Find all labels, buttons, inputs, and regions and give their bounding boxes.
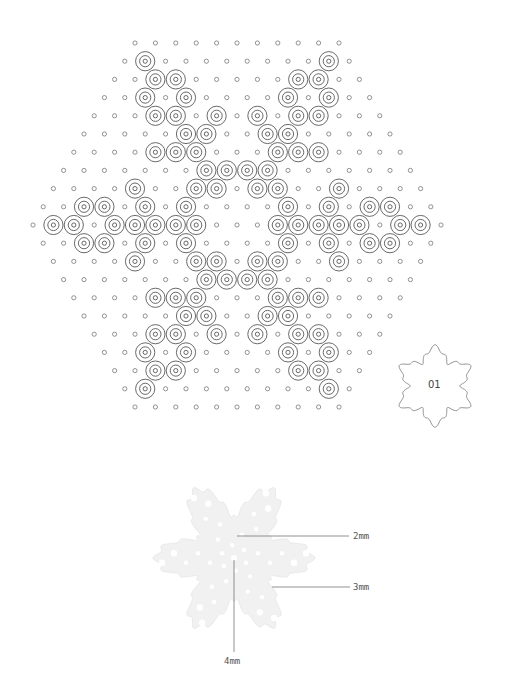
empty-peg [133, 114, 137, 118]
empty-peg [41, 205, 45, 209]
empty-peg [276, 114, 280, 118]
bead [329, 215, 348, 234]
bead [248, 325, 267, 344]
empty-peg [225, 205, 229, 209]
empty-peg [123, 314, 127, 318]
empty-peg [92, 150, 96, 154]
bead [309, 70, 328, 89]
empty-peg [266, 96, 270, 100]
empty-peg [194, 114, 198, 118]
empty-peg [133, 405, 137, 409]
empty-peg [164, 241, 168, 245]
empty-peg [439, 223, 443, 227]
bead [248, 106, 267, 125]
empty-peg [276, 77, 280, 81]
empty-peg [143, 314, 147, 318]
empty-peg [306, 59, 310, 63]
bead [146, 215, 165, 234]
empty-peg [215, 41, 219, 45]
empty-peg [123, 132, 127, 136]
bead [391, 215, 410, 234]
bead [289, 288, 308, 307]
empty-peg [347, 132, 351, 136]
empty-peg [184, 168, 188, 172]
empty-peg [347, 59, 351, 63]
bead [64, 215, 83, 234]
empty-peg [357, 114, 361, 118]
empty-peg [92, 259, 96, 263]
empty-peg [306, 350, 310, 354]
bead [248, 252, 267, 271]
empty-peg [378, 223, 382, 227]
empty-peg [133, 41, 137, 45]
empty-peg [408, 278, 412, 282]
empty-peg [113, 259, 117, 263]
bead [289, 325, 308, 344]
empty-peg [388, 132, 392, 136]
empty-peg [245, 132, 249, 136]
bead [176, 124, 195, 143]
empty-peg [62, 278, 66, 282]
bead [136, 343, 155, 362]
empty-peg [164, 168, 168, 172]
empty-peg [92, 187, 96, 191]
bead [187, 288, 206, 307]
empty-peg [337, 41, 341, 45]
empty-peg [368, 96, 372, 100]
empty-peg [327, 314, 331, 318]
bead [187, 215, 206, 234]
empty-peg [153, 41, 157, 45]
dimension-label-2mm: 2mm [353, 531, 369, 541]
empty-peg [92, 332, 96, 336]
empty-peg [204, 241, 208, 245]
empty-peg [388, 168, 392, 172]
empty-peg [286, 168, 290, 172]
bead [278, 234, 297, 253]
empty-peg [215, 150, 219, 154]
empty-peg [306, 205, 310, 209]
bead [360, 197, 379, 216]
bead [207, 325, 226, 344]
empty-peg [143, 278, 147, 282]
empty-peg [215, 405, 219, 409]
empty-peg [286, 59, 290, 63]
empty-peg [266, 350, 270, 354]
empty-peg [255, 296, 259, 300]
empty-peg [235, 296, 239, 300]
empty-peg [429, 205, 433, 209]
bead [278, 124, 297, 143]
bead [166, 106, 185, 125]
empty-peg [266, 387, 270, 391]
bead [166, 288, 185, 307]
empty-peg [357, 77, 361, 81]
bead [187, 252, 206, 271]
empty-peg [235, 259, 239, 263]
bead [258, 270, 277, 289]
empty-peg [113, 77, 117, 81]
bead [166, 215, 185, 234]
empty-peg [92, 114, 96, 118]
empty-peg [347, 205, 351, 209]
empty-peg [317, 259, 321, 263]
bead [319, 379, 338, 398]
empty-peg [62, 168, 66, 172]
empty-peg [174, 187, 178, 191]
bead [217, 161, 236, 180]
bead [309, 106, 328, 125]
empty-peg [164, 314, 168, 318]
empty-peg [194, 369, 198, 373]
empty-peg [327, 278, 331, 282]
empty-peg [102, 314, 106, 318]
empty-peg [113, 369, 117, 373]
empty-peg [133, 332, 137, 336]
empty-peg [113, 296, 117, 300]
empty-peg [368, 168, 372, 172]
empty-peg [419, 187, 423, 191]
bead [207, 179, 226, 198]
bead [74, 197, 93, 216]
empty-peg [245, 387, 249, 391]
bead [146, 70, 165, 89]
empty-peg [255, 150, 259, 154]
bead [166, 325, 185, 344]
bead [289, 70, 308, 89]
